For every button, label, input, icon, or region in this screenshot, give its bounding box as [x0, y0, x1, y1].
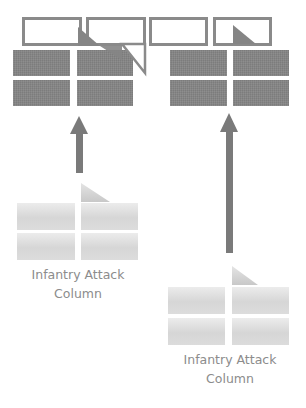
right-column-block-r1c1	[168, 287, 225, 314]
left-column-label-line1: Infantry Attack	[8, 265, 148, 284]
left-column-label: Infantry Attack Column	[8, 265, 148, 303]
left-column-block-r2c2	[81, 233, 138, 260]
left-wedge-triangle-icon	[78, 27, 100, 46]
left-column-block-r1c1	[17, 203, 75, 230]
right-column-label-line2: Column	[160, 369, 300, 388]
right-column-flag-triangle-icon	[232, 266, 258, 285]
right-column-block-r2c1	[168, 318, 225, 345]
right-column-label-line1: Infantry Attack	[160, 350, 300, 369]
right-column-block-r2c2	[232, 318, 289, 345]
left-column-label-line2: Column	[8, 284, 148, 303]
left-column-block-r1c2	[81, 203, 138, 230]
right-flag-triangle-icon	[233, 25, 256, 44]
left-advance-arrow-icon	[70, 116, 88, 173]
left-wedge-continuation	[100, 46, 122, 60]
breakthrough-tail-shape	[122, 44, 145, 73]
right-column-block-r1c2	[232, 287, 289, 314]
right-advance-arrow-icon	[220, 113, 238, 253]
left-column-flag-triangle-icon	[81, 183, 110, 202]
left-column-block-r2c1	[17, 233, 75, 260]
right-column-label: Infantry Attack Column	[160, 350, 300, 388]
